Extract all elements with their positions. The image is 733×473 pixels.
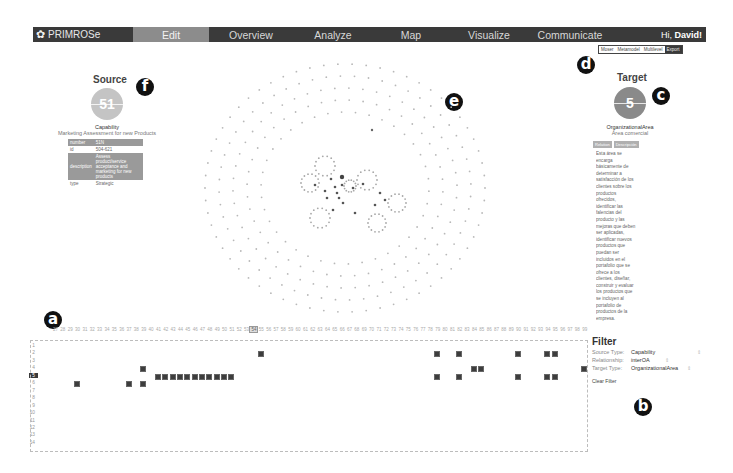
graph-node[interactable] [459,116,461,118]
graph-node[interactable] [450,106,452,108]
graph-node[interactable] [222,216,224,218]
graph-node[interactable] [456,197,458,199]
clear-filter-link[interactable]: Clear Filter [592,378,712,384]
graph-node[interactable] [444,233,446,235]
graph-node[interactable] [259,231,261,233]
graph-node[interactable] [401,101,403,103]
graph-node[interactable] [260,184,262,186]
matrix-cell[interactable] [140,381,146,387]
graph-node[interactable] [265,258,267,260]
graph-node[interactable] [394,193,396,195]
graph-node[interactable] [484,187,486,189]
graph-node[interactable] [401,115,403,117]
view-option-moser[interactable]: Moser [599,46,616,53]
graph-node[interactable] [368,77,370,79]
graph-node[interactable] [318,173,320,175]
matrix-column-label[interactable]: 58 [280,327,287,332]
source-node-badge[interactable]: 51 [91,88,123,120]
matrix-column-label[interactable]: 54 [250,327,257,332]
graph-node[interactable] [320,260,322,262]
matrix-cell[interactable] [192,374,198,380]
graph-node[interactable] [321,207,323,209]
graph-node[interactable] [362,88,364,90]
graph-node[interactable] [371,129,373,131]
graph-node[interactable] [394,263,396,265]
graph-node[interactable] [379,67,381,69]
graph-node[interactable] [382,281,384,283]
graph-node[interactable] [296,71,298,73]
graph-node[interactable] [248,277,250,279]
graph-node[interactable] [321,297,323,299]
matrix-column-label[interactable]: 93 [537,327,544,332]
graph-node[interactable] [355,185,357,187]
graph-node[interactable] [435,154,437,156]
graph-node[interactable] [348,99,350,101]
graph-node[interactable] [357,175,359,177]
graph-node[interactable] [328,213,330,215]
graph-node[interactable] [450,268,452,270]
matrix-cell[interactable] [221,374,227,380]
graph-node[interactable] [258,269,260,271]
matrix-cell[interactable] [552,374,558,380]
matrix-column-label[interactable]: 87 [493,327,500,332]
graph-node[interactable] [345,180,347,182]
matrix-column-label[interactable]: 74 [397,327,404,332]
graph-node[interactable] [375,175,377,177]
graph-node[interactable] [441,277,443,279]
graph-node[interactable] [348,191,350,193]
graph-node[interactable] [257,147,259,149]
graph-node[interactable] [294,98,296,100]
graph-node[interactable] [220,204,222,206]
graph-node[interactable] [264,209,266,211]
graph-node[interactable] [430,285,432,287]
graph-node[interactable] [233,239,235,241]
graph-node[interactable] [251,159,253,161]
matrix-cell[interactable] [214,374,220,380]
graph-node[interactable] [378,213,380,215]
graph-node[interactable] [387,252,389,254]
graph-node[interactable] [424,117,426,119]
graph-node[interactable] [281,284,283,286]
matrix-column-label[interactable]: 48 [206,327,213,332]
graph-node[interactable] [282,76,284,78]
graph-node[interactable] [304,175,306,177]
graph-node[interactable] [418,262,420,264]
graph-node[interactable] [273,95,275,97]
graph-node[interactable] [280,138,282,140]
graph-node[interactable] [325,209,327,211]
graph-node[interactable] [403,286,405,288]
matrix-column-label[interactable]: 80 [442,327,449,332]
matrix-cell[interactable] [581,366,587,372]
graph-node[interactable] [325,225,327,227]
matrix-column-label[interactable]: 60 [295,327,302,332]
matrix-column-label[interactable]: 37 [126,327,133,332]
graph-node[interactable] [340,175,344,179]
matrix-column-label[interactable]: 90 [515,327,522,332]
graph-node[interactable] [295,111,297,113]
graph-node[interactable] [239,153,241,155]
matrix-column-label[interactable]: 56 [265,327,272,332]
graph-node[interactable] [211,224,213,226]
matrix-cell[interactable] [456,374,462,380]
graph-node[interactable] [354,75,356,77]
graph-node[interactable] [441,97,443,99]
matrix-column-label[interactable]: 70 [368,327,375,332]
graph-node[interactable] [235,165,237,167]
graph-node[interactable] [481,212,483,214]
matrix-cell[interactable] [199,374,205,380]
matrix-column-label[interactable]: 66 [339,327,346,332]
graph-node[interactable] [313,283,315,285]
graph-node[interactable] [255,248,257,250]
graph-node[interactable] [371,229,373,231]
graph-node[interactable] [320,89,322,91]
graph-node[interactable] [270,82,272,84]
matrix-column-label[interactable]: 57 [273,327,280,332]
graph-node[interactable] [456,184,458,186]
graph-node[interactable] [379,192,382,195]
graph-node[interactable] [224,154,226,156]
target-node-badge[interactable]: 5 [614,87,646,119]
graph-node[interactable] [334,165,336,167]
matrix-column-label[interactable]: 29 [67,327,74,332]
matrix-column-label[interactable]: 46 [192,327,199,332]
matrix-column-label[interactable]: 78 [427,327,434,332]
